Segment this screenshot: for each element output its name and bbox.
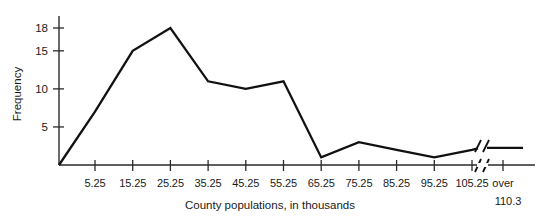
data-line-break-marks (475, 140, 489, 152)
x-tick-label-45.25: 45.25 (232, 177, 259, 189)
x-tick-label-65.25: 65.25 (308, 177, 335, 189)
y-axis-title: Frequency (11, 67, 23, 122)
x-tick-label-105.25: 105.25 (455, 177, 488, 189)
y-tick-label-15: 15 (35, 45, 48, 57)
x-tick-label-25.25: 25.25 (157, 177, 184, 189)
x-tick-label-over: over (492, 177, 514, 189)
x-tick-label-15.25: 15.25 (119, 177, 146, 189)
y-tick-label-10: 10 (35, 83, 48, 95)
y-tick-label-18: 18 (35, 22, 48, 34)
x-tick-label-over-value: 110.3 (495, 195, 522, 207)
x-axis-tick-labels: 5.2515.2525.2535.2545.2555.2565.2575.258… (84, 177, 488, 189)
x-tick-label-55.25: 55.25 (270, 177, 297, 189)
x-tick-label-75.25: 75.25 (345, 177, 372, 189)
frequency-data-line (59, 28, 478, 165)
frequency-polygon-chart: 5101518 5.2515.2525.2535.2545.2555.2565.… (0, 0, 542, 224)
x-tick-label-85.25: 85.25 (383, 177, 410, 189)
chart-canvas: 5101518 5.2515.2525.2535.2545.2555.2565.… (0, 0, 542, 224)
axes-group (59, 16, 535, 165)
y-tick-label-5: 5 (42, 121, 48, 133)
x-tick-label-35.25: 35.25 (195, 177, 222, 189)
x-tick-label-95.25: 95.25 (421, 177, 448, 189)
axis-break-mask (477, 163, 488, 167)
x-tick-label-5.25: 5.25 (84, 177, 105, 189)
x-axis-title: County populations, in thousands (185, 199, 355, 211)
